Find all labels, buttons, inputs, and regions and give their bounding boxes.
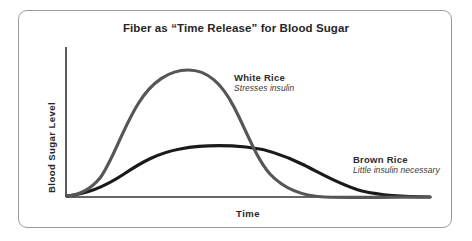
series-description-white-rice: Stresses insulin	[234, 83, 294, 94]
x-axis-label: Time	[66, 208, 430, 219]
y-axis-label: Blood Sugar Level	[46, 43, 57, 193]
series-annotation-white-rice: White Rice Stresses insulin	[234, 72, 294, 94]
series-label-brown-rice: Brown Rice	[353, 154, 440, 165]
series-label-white-rice: White Rice	[234, 72, 294, 83]
chart-screenshot: Fiber as “Time Release” for Blood Sugar …	[0, 0, 472, 241]
series-annotation-brown-rice: Brown Rice Little insulin necessary	[353, 154, 440, 176]
series-description-brown-rice: Little insulin necessary	[353, 165, 440, 176]
plot-area	[18, 10, 452, 228]
